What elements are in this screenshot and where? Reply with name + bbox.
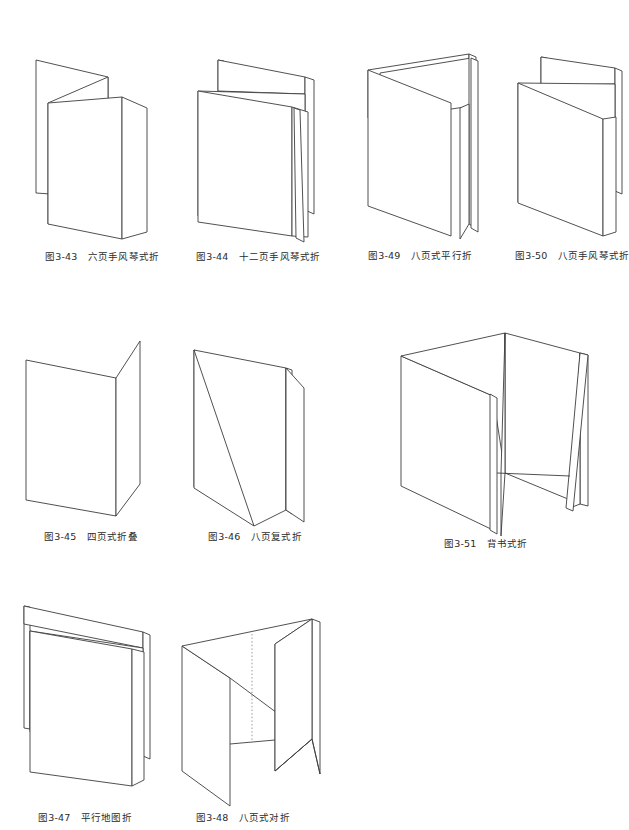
figure-3-45-caption: 图3-45 四页式折叠 — [44, 531, 138, 543]
accordion-twelve-page-svg — [184, 46, 324, 246]
panel-front-left — [30, 631, 132, 786]
figure-3-46-caption: 图3-46 八页复式折 — [208, 531, 302, 543]
figure-3-45-drawing — [12, 330, 152, 530]
figure-3-49-drawing — [358, 46, 488, 246]
panel-rear-band — [541, 57, 615, 85]
panel-front-right — [603, 117, 616, 236]
parallel-eight-page-svg — [358, 46, 488, 246]
panel-front-left-large — [198, 91, 292, 236]
panel-front-left — [48, 97, 122, 239]
parallel-map-fold-svg — [14, 604, 164, 804]
panel-right — [286, 368, 304, 522]
panel-left — [26, 360, 116, 516]
figure-3-47-drawing — [14, 604, 164, 804]
four-page-fold-svg — [12, 330, 152, 530]
figure-3-44-drawing — [184, 46, 324, 246]
panel-right-b — [471, 58, 478, 232]
figure-3-48-caption: 图3-48 八页式对折 — [196, 812, 290, 824]
panel-right-outer — [312, 619, 320, 774]
figure-3-46-drawing — [182, 330, 322, 530]
gate-fold-svg — [172, 616, 332, 811]
panel-front-right — [132, 649, 144, 786]
panel-right-face — [460, 104, 469, 239]
panel-front-right — [122, 97, 147, 239]
figure-3-43-drawing — [24, 46, 174, 246]
accordion-six-page-svg — [24, 46, 174, 246]
figure-3-51-drawing — [398, 318, 598, 543]
figure-3-50-caption: 图3-50 八页手风琴式折 — [515, 250, 629, 262]
figure-3-51-caption: 图3-51 背书式折 — [444, 538, 528, 550]
edge-inner-ledge — [230, 740, 275, 744]
compound-eight-page-svg — [182, 330, 322, 530]
figure-3-49-caption: 图3-49 八页式平行折 — [368, 250, 472, 262]
accordion-eight-page-svg — [498, 46, 628, 246]
back-fold-svg — [398, 318, 598, 543]
figure-3-44-caption: 图3-44 十二页手风琴式折 — [196, 251, 320, 263]
figure-3-48-drawing — [172, 616, 332, 811]
panel-rear-top-band — [218, 60, 305, 94]
panel-right — [116, 341, 140, 516]
panel-right-face — [275, 619, 312, 771]
figure-3-43-caption: 图3-43 六页手风琴式折 — [45, 251, 159, 263]
figure-3-47-caption: 图3-47 平行地图折 — [38, 812, 132, 824]
panel-spine-left — [490, 394, 497, 534]
figure-3-50-drawing — [498, 46, 628, 246]
